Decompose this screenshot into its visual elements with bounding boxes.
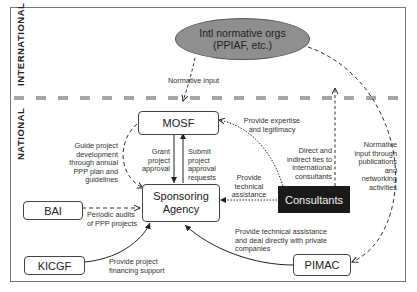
node-sponsoring-agency: Sponsoring Agency (142, 184, 220, 222)
label-periodic-audits: Periodic audits of PPP projects (87, 211, 137, 228)
node-kicgf: KICGF (24, 256, 85, 275)
label-guide-project: Guide project development through annual… (56, 142, 118, 185)
node-kicgf-label: KICGF (38, 260, 72, 272)
label-normative-publications: Normative input through publications and… (342, 141, 397, 193)
node-intl-normative-orgs-label: Intl normative orgs (PPIAF, etc.) (199, 27, 285, 51)
node-pimac-label: PIMAC (305, 259, 340, 271)
node-bai-label: BAI (44, 205, 62, 217)
node-bai: BAI (23, 201, 83, 220)
region-label-national: NATIONAL (15, 108, 26, 160)
label-direct-indirect-ties: Direct and indirect ties to internationa… (271, 147, 332, 181)
label-technical-assistance: Provide technical assistance (229, 174, 269, 200)
node-consultants-label: Consultants (285, 194, 343, 206)
node-pimac: PIMAC (293, 254, 351, 276)
node-mosf: MOSF (138, 111, 219, 135)
label-financing-support: Provide project financing support (109, 258, 165, 275)
node-intl-normative-orgs: Intl normative orgs (PPIAF, etc.) (175, 18, 310, 60)
node-mosf-label: MOSF (163, 117, 195, 129)
label-grant-approval: Grant project approval (140, 148, 170, 174)
node-sponsoring-agency-label: Sponsoring Agency (153, 190, 209, 216)
node-consultants: Consultants (278, 186, 350, 213)
label-pimac-assistance: Provide technical assistance and deal di… (235, 228, 327, 254)
label-normative-input: Normative input (168, 77, 219, 86)
region-label-international: INTERNATIONAL (15, 3, 26, 86)
label-submit-requests: Submit project approval requests (188, 148, 216, 182)
label-expertise-legitimacy: Provide expertise and legitimacy (236, 117, 308, 134)
